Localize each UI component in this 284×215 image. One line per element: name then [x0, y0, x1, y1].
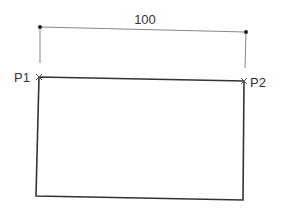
point-label-p1: P1: [14, 70, 30, 85]
dimension-line: [40, 27, 246, 32]
extension-line-right: [245, 32, 246, 68]
diagram-canvas: 100 P1 P2: [0, 0, 284, 215]
dimension-endpoint-right: [244, 30, 248, 34]
dimension-endpoint-left: [38, 25, 42, 29]
rectangle: [36, 77, 244, 200]
dimension-label: 100: [134, 12, 156, 27]
point-label-p2: P2: [250, 75, 266, 90]
